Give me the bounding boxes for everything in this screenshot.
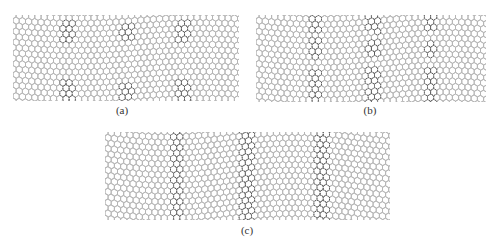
panel-b-caption: (b) xyxy=(364,104,377,116)
lattice-svg xyxy=(256,15,486,102)
panel-a-caption: (a) xyxy=(116,104,128,116)
panel-c-graphene-lattice xyxy=(105,132,390,220)
lattice-svg xyxy=(13,15,239,101)
panel-a-graphene-lattice xyxy=(13,15,239,101)
lattice-svg xyxy=(105,132,390,220)
panel-c-caption: (c) xyxy=(241,224,253,236)
panel-b-graphene-lattice xyxy=(256,15,486,102)
